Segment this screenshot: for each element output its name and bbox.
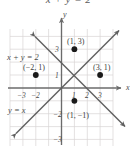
x-axis-label: x (126, 84, 130, 92)
data-point (72, 46, 78, 52)
coordinate-plane (0, 0, 137, 151)
x-tick-3: 3 (98, 92, 102, 100)
graph-figure: x + y = 2 (0, 0, 137, 151)
y-tick-neg3: −3 (53, 136, 62, 144)
data-point (97, 72, 103, 78)
data-point (33, 72, 39, 78)
x-tick-1: 1 (72, 92, 76, 100)
y-tick-1: 1 (55, 72, 59, 80)
point-label-3-1: (3, 1) (93, 64, 110, 72)
y-tick-3: 3 (55, 46, 59, 54)
y-tick-neg2: −2 (53, 111, 62, 119)
y-axis-label: y (63, 11, 67, 19)
point-label-1-neg1: (1, −1) (67, 112, 89, 120)
x-tick-neg2: −2 (31, 92, 40, 100)
point-label-1-3: (1, 3) (67, 38, 84, 46)
x-tick-neg3: −3 (17, 92, 26, 100)
line-label-x-plus-y-equals-2: x + y = 2 (7, 53, 39, 62)
x-tick-2: 2 (85, 92, 89, 100)
line-label-y-equals-x: y = x (8, 106, 26, 115)
point-label-neg2-1: (−2, 1) (23, 64, 45, 72)
